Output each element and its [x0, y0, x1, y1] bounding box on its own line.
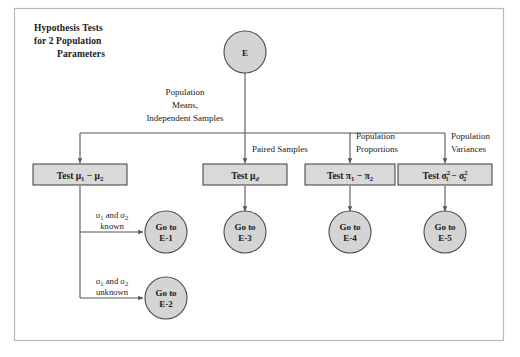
condition-label-known-line-2: known	[100, 221, 124, 231]
edge-label-variances-line-2: Variances	[451, 144, 486, 154]
node-test-means-label: Test μ1 − μ2	[57, 171, 104, 183]
node-goto-e5[interactable]: Go to E-5	[424, 211, 466, 253]
node-goto-e5-line-2: E-5	[438, 233, 452, 243]
condition-label-unknown: σ1 and σ2 unknown	[96, 276, 129, 297]
node-goto-e5-shape	[424, 211, 466, 253]
node-root-e[interactable]: E	[224, 31, 266, 73]
edge-label-variances: Population Variances	[451, 131, 491, 154]
edge-label-paired: Paired Samples	[252, 144, 308, 154]
node-goto-e1[interactable]: Go to E-1	[145, 211, 187, 253]
node-goto-e4-line-2: E-4	[343, 233, 357, 243]
edge-label-proportions-line-2: Proportions	[356, 144, 399, 154]
node-test-variances-label: Test σ21 − σ22	[423, 169, 469, 182]
condition-label-known: σ1 and σ2 known	[96, 210, 129, 231]
edge-label-variances-line-1: Population	[451, 131, 491, 141]
node-goto-e3-line-1: Go to	[234, 222, 256, 232]
figure-canvas: Hypothesis Tests for 2 Population Parame…	[0, 0, 520, 357]
node-goto-e1-line-2: E-1	[159, 233, 173, 243]
figure-title: Hypothesis Tests for 2 Population Parame…	[34, 23, 105, 59]
figure-title-line-3: Parameters	[57, 49, 105, 59]
edge-label-means: Population Means, Independent Samples	[146, 87, 224, 123]
node-goto-e1-line-1: Go to	[155, 222, 177, 232]
node-goto-e2-line-1: Go to	[155, 288, 177, 298]
node-goto-e4-line-1: Go to	[339, 222, 361, 232]
node-test-proportions[interactable]: Test π1 − π2	[305, 164, 395, 185]
flowchart-diagram: Hypothesis Tests for 2 Population Parame…	[0, 0, 520, 357]
edge-label-proportions-line-1: Population	[356, 131, 396, 141]
node-goto-e4[interactable]: Go to E-4	[329, 211, 371, 253]
node-test-proportions-label: Test π1 − π2	[327, 171, 374, 183]
node-goto-e2-line-2: E-2	[159, 299, 173, 309]
node-test-variances[interactable]: Test σ21 − σ22	[398, 164, 492, 185]
condition-label-known-line-1: σ1 and σ2	[96, 210, 129, 221]
condition-label-unknown-line-1: σ1 and σ2	[96, 276, 129, 287]
node-goto-e2[interactable]: Go to E-2	[145, 277, 187, 319]
figure-title-line-1: Hypothesis Tests	[34, 23, 103, 33]
node-test-paired-label: Test μd	[231, 171, 259, 183]
node-goto-e2-shape	[145, 277, 187, 319]
node-goto-e3[interactable]: Go to E-3	[224, 211, 266, 253]
edge-label-means-line-2: Means,	[172, 100, 198, 110]
node-goto-e3-line-2: E-3	[238, 233, 252, 243]
edge-label-proportions: Population Proportions	[356, 131, 399, 154]
figure-title-line-2: for 2 Population	[34, 36, 102, 46]
condition-label-unknown-line-2: unknown	[96, 287, 129, 297]
node-goto-e5-line-1: Go to	[434, 222, 456, 232]
node-test-means[interactable]: Test μ1 − μ2	[33, 164, 127, 185]
edge-label-means-line-1: Population	[165, 87, 205, 97]
node-test-paired[interactable]: Test μd	[203, 164, 287, 185]
node-root-e-label: E	[242, 48, 248, 58]
node-goto-e4-shape	[329, 211, 371, 253]
node-goto-e3-shape	[224, 211, 266, 253]
edge-label-means-line-3: Independent Samples	[146, 113, 224, 123]
node-goto-e1-shape	[145, 211, 187, 253]
